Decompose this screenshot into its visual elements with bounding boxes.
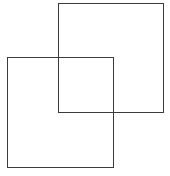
squares-drawing [0,0,170,176]
figure-canvas [0,0,170,176]
